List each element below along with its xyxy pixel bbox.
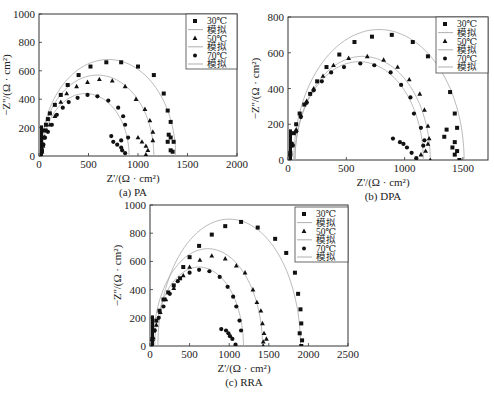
data-point-square bbox=[284, 251, 288, 255]
data-point-circle bbox=[109, 134, 113, 138]
data-point-triangle bbox=[150, 138, 155, 142]
data-point-circle bbox=[61, 106, 65, 110]
data-point-triangle bbox=[97, 77, 102, 81]
data-point-circle bbox=[123, 151, 127, 155]
data-point-circle bbox=[401, 142, 405, 146]
data-point-circle bbox=[237, 319, 241, 323]
y-tick-label: 400 bbox=[268, 83, 285, 95]
y-axis-label: −Z''/(Ω · cm²) bbox=[249, 57, 262, 119]
data-point-square bbox=[172, 140, 176, 144]
data-point-circle bbox=[239, 328, 243, 332]
plot-area bbox=[40, 59, 176, 157]
y-tick-label: 600 bbox=[19, 65, 36, 77]
data-point-circle bbox=[294, 129, 298, 133]
data-point-triangle bbox=[74, 84, 79, 88]
data-point-square bbox=[104, 60, 108, 64]
data-point-circle bbox=[219, 327, 223, 331]
x-tick-label: 500 bbox=[338, 162, 355, 174]
data-point-square bbox=[166, 109, 170, 113]
data-point-square bbox=[308, 92, 312, 96]
data-point-square bbox=[453, 112, 457, 116]
y-tick-label: 600 bbox=[130, 255, 147, 267]
data-point-circle bbox=[218, 275, 222, 279]
data-point-triangle bbox=[146, 148, 151, 152]
data-point-triangle bbox=[187, 264, 192, 268]
data-point-square bbox=[169, 120, 173, 124]
data-point-circle bbox=[46, 130, 50, 134]
data-point-triangle bbox=[144, 143, 149, 147]
x-tick-label: 500 bbox=[181, 348, 198, 360]
data-point-circle bbox=[234, 304, 238, 308]
legend-label: 模拟 bbox=[457, 61, 477, 72]
data-point-square bbox=[53, 103, 57, 107]
legend: 30℃模拟50℃模拟70℃模拟 bbox=[186, 14, 237, 69]
data-point-circle bbox=[358, 61, 362, 65]
data-point-circle bbox=[176, 279, 180, 283]
data-point-circle bbox=[115, 143, 119, 147]
data-point-square bbox=[44, 123, 48, 127]
chart-b: 0500100015000200400600800Z'/(Ω · cm²)−Z'… bbox=[249, 11, 488, 203]
data-point-square bbox=[169, 136, 173, 140]
data-point-triangle bbox=[85, 80, 90, 84]
fit-curve bbox=[153, 249, 262, 346]
legend-circle-icon bbox=[443, 56, 447, 60]
data-point-circle bbox=[106, 99, 110, 103]
data-point-circle bbox=[197, 268, 201, 272]
data-point-triangle bbox=[423, 148, 428, 152]
data-point-triangle bbox=[422, 107, 427, 111]
data-point-square bbox=[66, 83, 70, 87]
data-point-circle bbox=[126, 135, 130, 139]
data-point-square bbox=[48, 111, 52, 115]
data-point-square bbox=[171, 150, 175, 154]
data-point-circle bbox=[226, 285, 230, 289]
legend-label: 模拟 bbox=[207, 58, 227, 69]
data-point-triangle bbox=[395, 64, 400, 68]
data-point-circle bbox=[422, 138, 426, 142]
y-axis-label: −Z''/(Ω · cm²) bbox=[0, 54, 13, 116]
chart-caption: (b) DPA bbox=[365, 190, 402, 203]
x-tick-label: 0 bbox=[36, 158, 42, 170]
chart-caption: (c) RRA bbox=[225, 376, 263, 389]
data-point-triangle bbox=[136, 135, 141, 139]
data-point-circle bbox=[320, 79, 324, 83]
data-point-triangle bbox=[64, 91, 69, 95]
data-point-triangle bbox=[144, 152, 149, 156]
data-point-square bbox=[119, 60, 123, 64]
data-point-circle bbox=[414, 156, 418, 160]
data-point-square bbox=[136, 65, 140, 69]
data-point-circle bbox=[161, 304, 165, 308]
x-tick-label: 2500 bbox=[337, 348, 360, 360]
legend-square-icon bbox=[302, 212, 306, 216]
legend-square-icon bbox=[193, 19, 197, 23]
plot-area bbox=[150, 219, 304, 348]
x-axis-label: Z'/(Ω · cm²) bbox=[356, 176, 409, 189]
legend-square-icon bbox=[443, 22, 447, 26]
data-point-circle bbox=[391, 136, 395, 140]
data-point-square bbox=[426, 54, 430, 58]
data-point-circle bbox=[372, 63, 376, 67]
x-tick-label: 2000 bbox=[226, 158, 249, 170]
y-axis-label: −Z''/(Ω · cm²) bbox=[111, 244, 124, 306]
data-point-square bbox=[188, 255, 192, 259]
data-point-circle bbox=[305, 101, 309, 105]
data-point-square bbox=[166, 140, 170, 144]
data-point-square bbox=[296, 292, 300, 296]
y-tick-label: 400 bbox=[19, 93, 36, 105]
data-point-square bbox=[445, 128, 449, 132]
data-point-circle bbox=[412, 111, 416, 115]
data-point-square bbox=[324, 65, 328, 69]
y-tick-label: 0 bbox=[141, 340, 147, 352]
y-tick-label: 200 bbox=[268, 118, 285, 130]
data-point-square bbox=[162, 92, 166, 96]
legend: 30℃模拟50℃模拟70℃模拟 bbox=[436, 17, 488, 73]
data-point-circle bbox=[111, 140, 115, 144]
data-point-circle bbox=[121, 114, 125, 118]
x-tick-label: 1000 bbox=[127, 158, 150, 170]
data-point-triangle bbox=[209, 253, 214, 257]
y-tick-label: 200 bbox=[130, 312, 147, 324]
figure-canvas: 050010001500200002004006008001000Z'/(Ω ·… bbox=[0, 0, 494, 397]
y-tick-label: 800 bbox=[268, 11, 285, 23]
data-point-circle bbox=[123, 123, 127, 127]
data-point-square bbox=[152, 73, 156, 77]
data-point-square bbox=[453, 140, 457, 144]
